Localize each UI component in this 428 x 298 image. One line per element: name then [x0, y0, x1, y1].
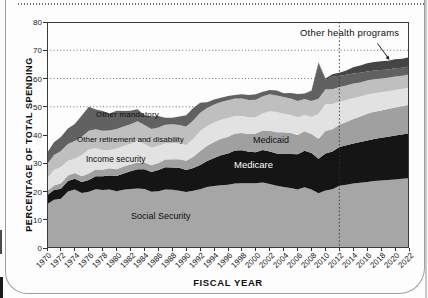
y-tick-label-80: 80 [17, 18, 42, 27]
band-label-social-security: Social Security [131, 211, 191, 221]
band-label-medicaid: Medicaid [253, 135, 289, 145]
band-label-other-retirement: Other retirement and disability [77, 135, 184, 145]
band-label-medicare: Medicare [234, 160, 273, 170]
annotation-other-health-programs: Other health programs [300, 28, 399, 38]
page-edge-mark [0, 277, 3, 298]
y-tick-label-40: 40 [17, 131, 42, 140]
band-label-other-mandatory: Other mandatory [96, 110, 159, 120]
annotation-arrow-line [378, 44, 388, 58]
y-tick-30 [43, 163, 47, 164]
annotation-arrow-head [386, 56, 390, 60]
y-tick-label-30: 30 [17, 159, 42, 168]
y-tick-label-60: 60 [17, 75, 42, 84]
y-tick-50 [43, 106, 47, 107]
scanned-chart-page: PERCENTAGE OF TOTAL SPENDING Other manda… [0, 0, 428, 298]
y-tick-70 [43, 50, 47, 51]
y-tick-label-50: 50 [17, 103, 42, 112]
y-tick-80 [43, 22, 47, 23]
y-tick-label-70: 70 [17, 46, 42, 55]
y-tick-10 [43, 219, 47, 220]
y-tick-label-0: 0 [17, 244, 42, 253]
y-tick-label-10: 10 [17, 216, 42, 225]
y-tick-label-20: 20 [17, 188, 42, 197]
y-tick-20 [43, 191, 47, 192]
y-tick-40 [43, 135, 47, 136]
y-tick-60 [43, 78, 47, 79]
page-edge-mark-small [0, 230, 2, 254]
band-label-income-security: Income security [86, 154, 146, 164]
page-right-edge [425, 0, 427, 298]
